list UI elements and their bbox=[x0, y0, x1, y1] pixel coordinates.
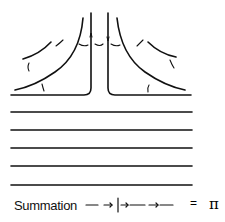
flow-diagram bbox=[0, 0, 225, 222]
arrow-icon bbox=[95, 44, 103, 46]
arrow-icon bbox=[42, 84, 44, 91]
right-streamline-inner bbox=[117, 18, 185, 90]
left-streamline-outer bbox=[23, 42, 51, 59]
legend: Summation bbox=[14, 196, 83, 214]
arrow-icon bbox=[111, 44, 120, 46]
arrow-icon bbox=[137, 40, 143, 46]
left-streamline-inner bbox=[15, 18, 83, 90]
right-streamline-outer bbox=[148, 42, 176, 57]
left-wall bbox=[11, 13, 91, 95]
legend-arrow-sequence bbox=[86, 198, 173, 212]
arrow-icon bbox=[79, 44, 88, 46]
right-wall bbox=[108, 13, 191, 95]
arrow-icon bbox=[28, 63, 29, 71]
arrow-icon bbox=[170, 60, 174, 68]
arrow-icon bbox=[148, 85, 149, 92]
legend-label: Summation bbox=[14, 198, 77, 213]
pi-symbol: π bbox=[209, 195, 219, 213]
equals-sign: = bbox=[190, 196, 197, 210]
arrow-icon bbox=[56, 40, 63, 46]
